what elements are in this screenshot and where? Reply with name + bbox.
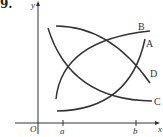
curve-label-a: A [146,38,154,49]
tick-label-a: a [60,126,65,136]
y-axis-label: y [30,0,35,10]
curve-label-c: C [154,96,161,107]
curve-d [56,26,150,83]
y-axis-arrow-icon [36,1,40,6]
origin-label: O [30,124,37,134]
x-axis-label: x [157,124,162,134]
tick-label-b: b [133,126,138,136]
function-graph: y O a b x B A D C [0,0,163,137]
curve-label-b: B [138,21,145,32]
curve-label-d: D [150,68,157,79]
